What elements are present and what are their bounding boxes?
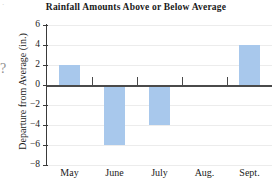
x-axis-label: July xyxy=(137,167,183,178)
bar-chart: · ? Rainfall Amounts Above or Below Aver… xyxy=(0,0,272,183)
y-axis-tick-label: −4 xyxy=(14,119,40,129)
y-axis-tick-label: −6 xyxy=(14,139,40,149)
x-axis-label: Sept. xyxy=(227,167,273,178)
plot-area xyxy=(47,25,272,165)
y-axis-tick xyxy=(43,125,48,126)
gridline xyxy=(47,25,272,26)
gridline xyxy=(47,165,272,166)
y-axis-tick-label: 4 xyxy=(14,39,40,49)
x-axis-label: Aug. xyxy=(182,167,228,178)
y-axis-tick-label: 6 xyxy=(14,19,40,29)
y-axis-tick xyxy=(43,25,48,26)
y-axis-tick xyxy=(43,65,48,66)
y-axis-tick-label: 0 xyxy=(14,79,40,89)
gridline xyxy=(47,145,272,146)
bar xyxy=(104,85,125,145)
category-tick xyxy=(182,77,183,85)
gridline xyxy=(47,125,272,126)
scan-artifact-question-mark: ? xyxy=(0,61,6,77)
y-axis-tick-label: 2 xyxy=(14,59,40,69)
y-axis-tick xyxy=(43,105,48,106)
y-axis-tick xyxy=(43,145,48,146)
bar xyxy=(59,65,80,85)
y-axis-tick xyxy=(43,45,48,46)
category-tick xyxy=(137,77,138,85)
x-axis-label: May xyxy=(47,167,93,178)
category-tick xyxy=(227,77,228,85)
y-axis-tick xyxy=(43,165,48,166)
y-axis-tick-label: −8 xyxy=(14,159,40,169)
y-axis-tick-label: −2 xyxy=(14,99,40,109)
bar xyxy=(239,45,260,85)
zero-baseline xyxy=(47,85,272,87)
category-tick xyxy=(92,77,93,85)
chart-title: Rainfall Amounts Above or Below Average xyxy=(0,2,272,12)
x-axis-label: June xyxy=(92,167,138,178)
bar xyxy=(149,85,170,125)
